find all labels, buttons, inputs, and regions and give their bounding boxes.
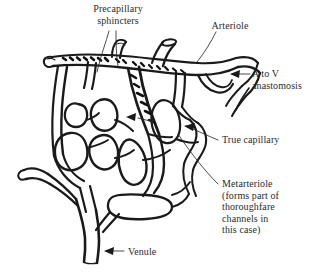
label-true-capillary: True capillary [222,134,317,146]
anastomosis-loop [198,74,233,93]
figure-canvas: Precapillary sphincters Arteriole A to V… [0,0,322,277]
a-to-v-arrowhead [230,70,240,78]
capillary-connectors [54,106,198,207]
label-arteriole: Arteriole [190,20,270,32]
right-capillary-arcs [183,120,206,196]
label-venule: Venule [128,246,178,258]
label-precapillary-sphincters: Precapillary sphincters [63,3,173,26]
label-metarteriole: Metarteriole (forms part of thoroughfare… [222,178,318,236]
label-a-to-v-anastomosis: A to V anastomosis [252,68,322,91]
venule-arrowhead [104,247,114,255]
venule-vessel [18,169,119,264]
annotation-arrowheads [104,70,240,255]
inner-capillary-arrowhead [126,113,136,121]
true-capillary-arrowhead [184,123,195,131]
arteriole-leader [197,32,216,62]
